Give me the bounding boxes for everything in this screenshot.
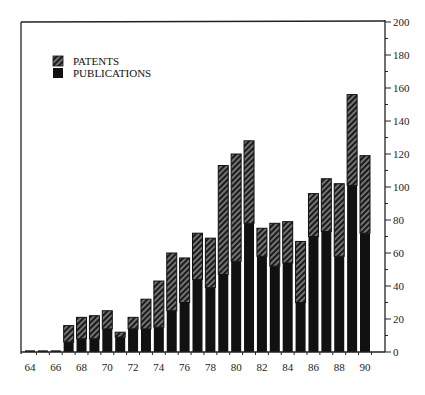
- bar-publications-72: [128, 329, 138, 352]
- stacked-bar-chart: 020406080100120140160180200 646668707274…: [0, 0, 425, 395]
- bar-publications-75: [167, 311, 177, 352]
- y-tick-label: 200: [393, 16, 410, 28]
- bar-69: [89, 316, 99, 352]
- bar-patents-74: [154, 281, 164, 327]
- x-tick-label: 78: [205, 361, 217, 373]
- bar-89: [347, 95, 357, 352]
- bar-patents-76: [180, 258, 190, 303]
- bar-87: [321, 179, 331, 352]
- bar-patents-89: [347, 95, 357, 186]
- x-tick-label: 82: [256, 361, 267, 373]
- bar-78: [205, 238, 215, 352]
- bar-68: [77, 317, 87, 352]
- legend-label-patents: PATENTS: [73, 55, 119, 67]
- bar-83: [270, 223, 280, 352]
- bar-79: [218, 166, 228, 352]
- frame-top: [21, 21, 385, 22]
- y-tick-label: 180: [393, 49, 410, 61]
- bar-patents-68: [77, 317, 87, 338]
- bar-72: [128, 317, 138, 352]
- bar-84: [283, 222, 293, 352]
- bar-patents-75: [167, 253, 177, 311]
- x-axis: 6466687072747678808284868890: [21, 352, 385, 373]
- bar-publications-71: [115, 337, 125, 352]
- y-tick-label: 100: [393, 181, 410, 193]
- x-tick-label: 74: [153, 361, 165, 373]
- bar-patents-69: [89, 316, 99, 339]
- legend-swatch-patents: [53, 56, 63, 66]
- x-tick-label: 72: [128, 361, 139, 373]
- y-tick-label: 60: [393, 247, 405, 259]
- bar-patents-67: [64, 326, 74, 343]
- y-tick-label: 0: [393, 346, 399, 358]
- bar-patents-79: [218, 166, 228, 275]
- bar-patents-72: [128, 317, 138, 329]
- bar-publications-86: [308, 237, 318, 353]
- bar-patents-83: [270, 223, 280, 266]
- x-tick-label: 84: [282, 361, 294, 373]
- bar-patents-81: [244, 141, 254, 224]
- bar-publications-73: [141, 329, 151, 352]
- y-tick-label: 80: [393, 214, 405, 226]
- bar-patents-88: [334, 184, 344, 257]
- bar-publications-87: [321, 232, 331, 352]
- bar-patents-80: [231, 154, 241, 261]
- x-tick-label: 86: [308, 361, 320, 373]
- x-tick-label: 88: [334, 361, 346, 373]
- x-tick-label: 76: [179, 361, 191, 373]
- bar-74: [154, 281, 164, 352]
- bar-publications-82: [257, 256, 267, 352]
- bar-publications-79: [218, 274, 228, 352]
- bar-publications-78: [205, 288, 215, 352]
- bar-publications-69: [89, 339, 99, 352]
- bar-publications-85: [296, 303, 306, 353]
- y-tick-label: 120: [393, 148, 410, 160]
- legend-label-publications: PUBLICATIONS: [73, 67, 151, 79]
- bar-85: [296, 241, 306, 352]
- bar-86: [308, 194, 318, 352]
- bar-publications-74: [154, 327, 164, 352]
- bar-73: [141, 299, 151, 352]
- bar-publications-70: [102, 329, 112, 352]
- bar-70: [102, 311, 112, 352]
- bar-67: [64, 326, 74, 352]
- bar-77: [193, 233, 203, 352]
- bar-publications-90: [360, 233, 370, 352]
- y-tick-label: 140: [393, 115, 410, 127]
- bar-patents-73: [141, 299, 151, 329]
- x-tick-label: 66: [50, 361, 62, 373]
- bar-patents-71: [115, 332, 125, 337]
- bar-90: [360, 156, 370, 352]
- bar-publications-77: [193, 279, 203, 352]
- bar-patents-77: [193, 233, 203, 279]
- bar-publications-88: [334, 256, 344, 352]
- bar-patents-78: [205, 238, 215, 288]
- legend-swatch-publications: [53, 68, 63, 78]
- bar-75: [167, 253, 177, 352]
- bar-81: [244, 141, 254, 352]
- bar-patents-86: [308, 194, 318, 237]
- bar-80: [231, 154, 241, 352]
- legend: PATENTS PUBLICATIONS: [53, 55, 151, 79]
- bar-patents-70: [102, 311, 112, 329]
- x-tick-label: 80: [231, 361, 243, 373]
- x-tick-label: 70: [102, 361, 114, 373]
- bar-publications-83: [270, 266, 280, 352]
- bar-patents-85: [296, 241, 306, 302]
- y-axis: 020406080100120140160180200: [385, 16, 410, 358]
- bar-71: [115, 332, 125, 352]
- bar-publications-67: [64, 342, 74, 352]
- bar-patents-84: [283, 222, 293, 263]
- bar-82: [257, 228, 267, 352]
- x-tick-label: 90: [360, 361, 372, 373]
- bars-group: [25, 95, 370, 352]
- bar-publications-76: [180, 303, 190, 353]
- bar-publications-89: [347, 185, 357, 352]
- x-tick-label: 68: [76, 361, 88, 373]
- bar-publications-81: [244, 223, 254, 352]
- bar-76: [180, 258, 190, 352]
- y-tick-label: 40: [393, 280, 405, 292]
- bar-publications-68: [77, 339, 87, 352]
- y-tick-label: 20: [393, 313, 405, 325]
- bar-patents-90: [360, 156, 370, 234]
